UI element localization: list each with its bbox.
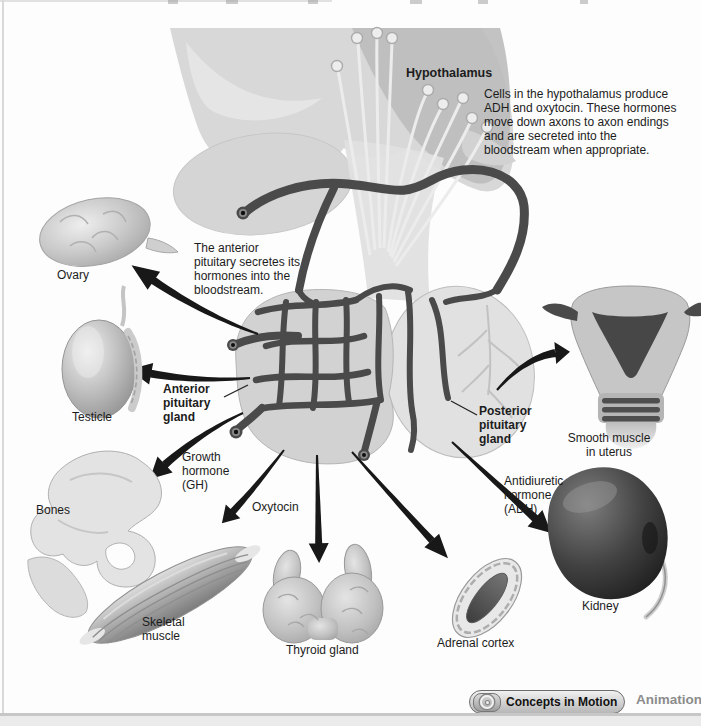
hypothalamus-note: Cells in the hypothalamus produce ADH an…: [484, 88, 699, 158]
ovary-illustration: [33, 188, 178, 276]
adh-label: Antidiuretic hormone (ADH): [504, 475, 563, 517]
concepts-in-motion-button[interactable]: Concepts in Motion: [469, 690, 625, 714]
uterus-illustration: [542, 286, 701, 449]
kidney-label: Kidney: [582, 600, 619, 614]
anterior-pituitary-label: Anterior pituitary gland: [163, 383, 210, 425]
concepts-in-motion-label: Concepts in Motion: [506, 695, 617, 709]
arrow-to-thyroid: [309, 455, 329, 563]
bottom-margin: [0, 716, 701, 726]
hypothalamus-label: Hypothalamus: [406, 66, 492, 81]
animation-label: Animation: [636, 692, 701, 707]
testicle-label: Testicle: [72, 411, 112, 425]
anterior-pituitary-note: The anterior pituitary secretes its horm…: [194, 242, 334, 298]
textbook-page: Hypothalamus Cells in the hypothalamus p…: [0, 0, 701, 726]
ovary-label: Ovary: [57, 269, 89, 283]
bones-label: Bones: [36, 504, 70, 518]
skeletal-muscle-label: Skeletal muscle: [142, 616, 185, 644]
kidney-illustration: [548, 467, 668, 617]
growth-hormone-label: Growth hormone (GH): [182, 451, 229, 493]
motion-icon: [473, 693, 501, 712]
thyroid-label: Thyroid gland: [286, 644, 359, 658]
thyroid-illustration: [263, 542, 383, 643]
uterus-label: Smooth muscle in uterus: [547, 432, 671, 460]
arrow-to-adrenal-cortex: [351, 451, 448, 558]
posterior-pituitary-label: Posterior pituitary gland: [479, 405, 532, 447]
oxytocin-label: Oxytocin: [252, 501, 299, 515]
adrenal-cortex-illustration: [439, 546, 535, 649]
testicle-illustration: [62, 286, 138, 418]
adrenal-cortex-label: Adrenal cortex: [437, 637, 514, 651]
